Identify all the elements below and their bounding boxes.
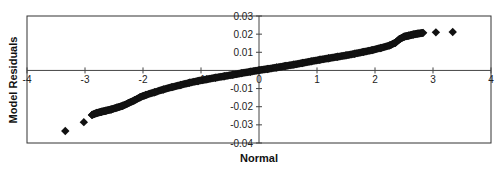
y-tick-label: -0.01 xyxy=(230,83,253,94)
x-tick-label: 1 xyxy=(314,74,320,85)
x-tick-label: -4 xyxy=(23,74,32,85)
y-tick-label: 0.01 xyxy=(234,47,254,58)
x-tick-label: -3 xyxy=(81,74,90,85)
y-tick-label: -0.02 xyxy=(230,101,253,112)
qq-plot-chart: -4-3-2-101234 0.030.020.01-0.01-0.02-0.0… xyxy=(0,0,500,171)
y-tick-label: 0.03 xyxy=(234,11,254,22)
y-axis-title: Model Residuals xyxy=(7,37,19,124)
x-tick-label: 4 xyxy=(488,74,494,85)
chart-canvas: -4-3-2-101234 0.030.020.01-0.01-0.02-0.0… xyxy=(0,0,500,171)
x-axis-title: Normal xyxy=(240,152,278,164)
y-tick-label: -0.03 xyxy=(230,119,253,130)
x-tick-label: 2 xyxy=(372,74,378,85)
x-tick-label: -2 xyxy=(139,74,148,85)
y-tick-label: -0.04 xyxy=(230,138,253,149)
x-tick-label: 3 xyxy=(430,74,436,85)
y-tick-label: 0.02 xyxy=(234,29,254,40)
